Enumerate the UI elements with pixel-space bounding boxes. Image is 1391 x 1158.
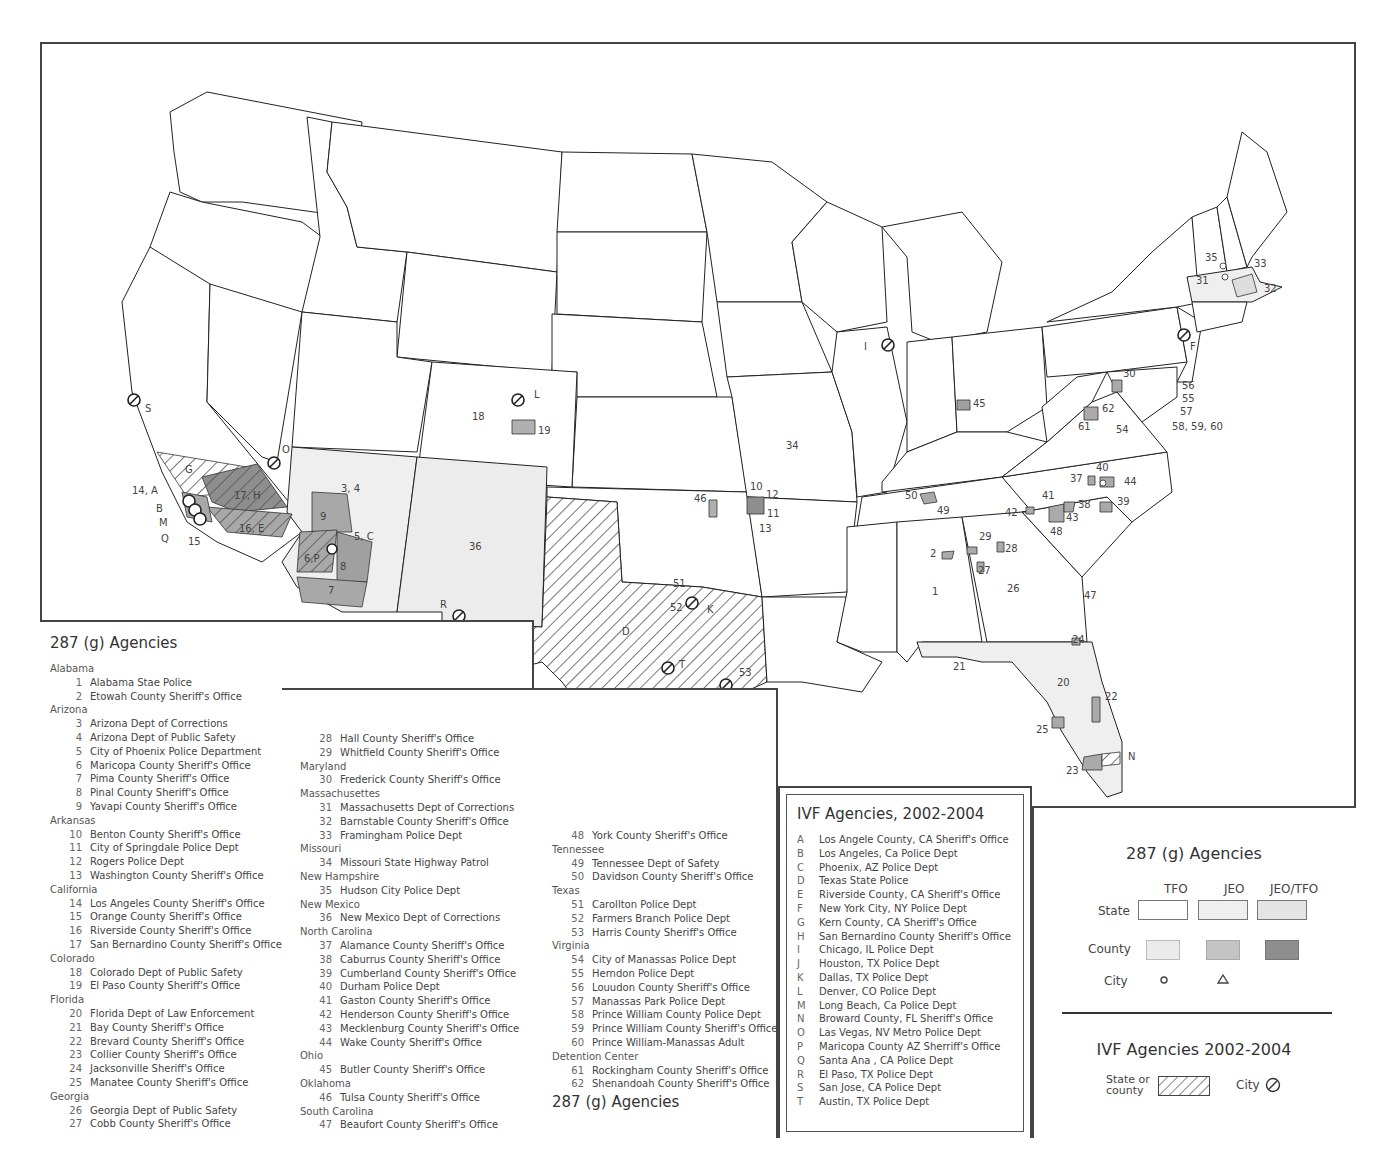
ivf-agencies-title: IVF Agencies, 2002-2004: [797, 805, 1023, 823]
svg-text:26: 26: [1007, 583, 1020, 594]
legend-ivf-title: IVF Agencies 2002-2004: [1034, 1040, 1354, 1059]
ivf-list-item: GKern County, CA Sheriff's Office: [797, 916, 1023, 930]
agency-name: City of Phoenix Police Department: [90, 746, 261, 757]
agency-name: Butler County Sheriff's Office: [340, 1064, 485, 1075]
agency-name: Pinal County Sheriff's Office: [90, 787, 229, 798]
agency-name: Whitfield County Sheriff's Office: [340, 747, 499, 758]
agency-name: Carollton Police Dept: [592, 899, 697, 910]
agency-name: New Mexico Dept of Corrections: [340, 912, 500, 923]
agency-number: 57: [562, 995, 584, 1009]
svg-text:L: L: [534, 389, 540, 400]
agency-name: Benton County Sheriff's Office: [90, 829, 241, 840]
swatch-county-jeo-tfo: [1265, 940, 1299, 960]
agency-name: Gaston County Sheriff's Office: [340, 995, 490, 1006]
svg-text:41: 41: [1042, 490, 1055, 501]
state-heading: North Carolina: [300, 925, 519, 939]
agency-name: Alabama Stae Police: [90, 677, 192, 688]
agency-list-item: 32Barnstable County Sheriff's Office: [300, 815, 519, 829]
agency-name: Prince William County Police Dept: [592, 1009, 761, 1020]
agency-name: Georgia Dept of Public Safety: [90, 1105, 237, 1116]
agencies-287g-column-2: 28Hall County Sheriff's Office29Whitfiel…: [300, 732, 519, 1132]
ivf-list-item: PMaricopa County AZ Sherriff's Office: [797, 1040, 1023, 1054]
agency-number: 40: [310, 980, 332, 994]
ivf-letter: G: [797, 916, 819, 930]
agency-name: Caburrus County Sheriff's Office: [340, 954, 500, 965]
svg-text:29: 29: [979, 531, 992, 542]
ivf-agency-name: Riverside County, CA Sheriff's Office: [819, 889, 1001, 900]
agencies-287g-title: 287 (g) Agencies: [50, 634, 282, 652]
agency-list-item: 60Prince William-Manassas Adult: [552, 1036, 777, 1050]
agency-list-item: 36New Mexico Dept of Corrections: [300, 911, 519, 925]
ivf-agency-name: Dallas, TX Police Dept: [819, 972, 929, 983]
ivf-letter: A: [797, 833, 819, 847]
ivf-letter: C: [797, 861, 819, 875]
state-heading: Virginia: [552, 939, 777, 953]
agency-name: Louudon County Sheriff's Office: [592, 982, 750, 993]
agency-number: 9: [60, 800, 82, 814]
agency-name: Missouri State Highway Patrol: [340, 857, 489, 868]
agency-number: 49: [562, 857, 584, 871]
state-heading: Maryland: [300, 760, 519, 774]
agency-list-item: 38Caburrus County Sheriff's Office: [300, 953, 519, 967]
agency-number: 28: [310, 732, 332, 746]
state-heading: South Carolina: [300, 1105, 519, 1119]
ivf-agency-name: Texas State Police: [819, 875, 908, 886]
svg-text:S: S: [145, 403, 151, 414]
city-marker-s: [128, 394, 140, 406]
agency-number: 12: [60, 855, 82, 869]
svg-text:10: 10: [750, 481, 763, 492]
ivf-agency-name: Kern County, CA Sheriff's Office: [819, 917, 977, 928]
agency-name: Hall County Sheriff's Office: [340, 733, 474, 744]
agency-name: Davidson County Sheriff's Office: [592, 871, 753, 882]
svg-text:8: 8: [340, 561, 346, 572]
agency-name: Brevard County Sheriff's Office: [90, 1036, 244, 1047]
legend-col-jeo: JEO: [1224, 882, 1245, 896]
agency-list-item: 4Arizona Dept of Public Safety: [50, 731, 282, 745]
ivf-letter: N: [797, 1012, 819, 1026]
ivf-letter: F: [797, 902, 819, 916]
agency-name: Prince William County Sheriff's Office: [592, 1023, 777, 1034]
agency-number: 24: [60, 1062, 82, 1076]
agency-number: 37: [310, 939, 332, 953]
agency-list-item: 40Durham Police Dept: [300, 980, 519, 994]
agency-list-item: 27Cobb County Sheriff's Office: [50, 1117, 282, 1131]
state-heading: Alabama: [50, 662, 282, 676]
agency-number: 59: [562, 1022, 584, 1036]
svg-text:14, A: 14, A: [132, 485, 158, 496]
agency-name: Orange County Sheriff's Office: [90, 911, 242, 922]
state-heading: Tennessee: [552, 843, 777, 857]
agency-list-item: 20Florida Dept of Law Enforcement: [50, 1007, 282, 1021]
agency-name: Manassas Park Police Dept: [592, 996, 725, 1007]
svg-text:51: 51: [673, 578, 686, 589]
legend-col-jeo-tfo: JEO/TFO: [1270, 882, 1318, 896]
agency-list-item: 9Yavapi County Sheriff's Office: [50, 800, 282, 814]
ivf-agency-name: Los Angele County, CA Sheriff's Office: [819, 834, 1009, 845]
state-heading: Arizona: [50, 703, 282, 717]
agency-number: 8: [60, 786, 82, 800]
agency-number: 29: [310, 746, 332, 760]
ivf-list-item: ALos Angele County, CA Sheriff's Office: [797, 833, 1023, 847]
ivf-list-item: KDallas, TX Police Dept: [797, 971, 1023, 985]
agency-number: 53: [562, 926, 584, 940]
ivf-agency-name: Santa Ana , CA Police Dept: [819, 1055, 953, 1066]
svg-text:52: 52: [670, 602, 683, 613]
agency-list-item: 23Collier County Sheriff's Office: [50, 1048, 282, 1062]
agency-name: Yavapi County Sheriff's Office: [90, 801, 237, 812]
agency-number: 54: [562, 953, 584, 967]
agency-number: 35: [310, 884, 332, 898]
agency-list-item: 29Whitfield County Sheriff's Office: [300, 746, 519, 760]
svg-text:G: G: [185, 464, 193, 475]
agency-number: 43: [310, 1022, 332, 1036]
svg-text:49: 49: [937, 505, 950, 516]
svg-text:38: 38: [1078, 499, 1091, 510]
svg-text:44: 44: [1124, 476, 1137, 487]
state-heading: California: [50, 883, 282, 897]
svg-text:25: 25: [1036, 724, 1049, 735]
agency-number: 38: [310, 953, 332, 967]
city-marker-l: [512, 394, 524, 406]
agency-number: 46: [310, 1091, 332, 1105]
ivf-list-item: MLong Beach, Ca Police Dept: [797, 999, 1023, 1013]
ivf-list-item: SSan Jose, CA Police Dept: [797, 1081, 1023, 1095]
state-heading: Georgia: [50, 1090, 282, 1104]
agency-name: Los Angeles County Sheriff's Office: [90, 898, 265, 909]
